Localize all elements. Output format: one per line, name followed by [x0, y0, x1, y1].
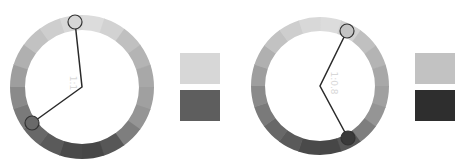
left-light-swatch[interactable]	[180, 53, 220, 84]
right-dark-color-handle[interactable]	[341, 131, 355, 145]
right-light-swatch[interactable]	[415, 53, 455, 84]
right-dark-swatch[interactable]	[415, 90, 455, 121]
left-dark-color-handle[interactable]	[25, 116, 39, 130]
left-dark-swatch[interactable]	[180, 90, 220, 121]
right-light-color-handle[interactable]	[340, 24, 354, 38]
left-center-label: 1:1	[68, 76, 78, 90]
right-center-label: 1:0.8	[329, 71, 339, 94]
left-light-color-handle[interactable]	[68, 15, 82, 29]
